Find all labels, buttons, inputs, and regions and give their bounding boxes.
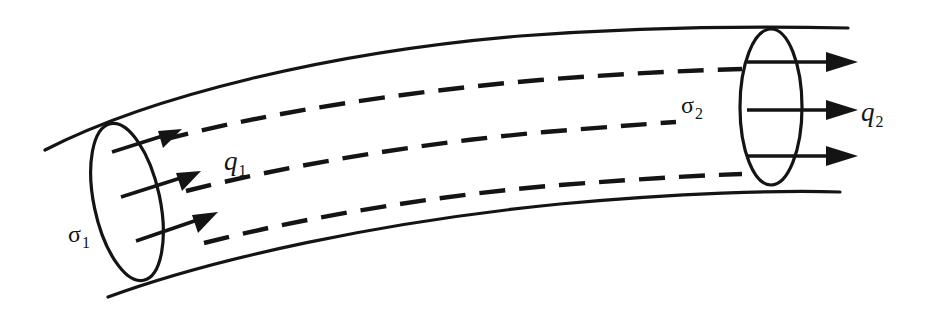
label-sigma-1-subscript: 1: [82, 234, 90, 251]
outlet-arrow-3: [747, 146, 858, 166]
outlet-flux-arrows: [747, 52, 858, 166]
label-q-1-subscript: 1: [239, 162, 247, 179]
label-q-2-subscript: 2: [876, 113, 884, 130]
label-q-1: q1: [224, 148, 246, 175]
label-sigma-2-subscript: 2: [695, 105, 703, 122]
label-sigma-1-base: σ: [68, 221, 81, 247]
outlet-arrow-1: [747, 52, 858, 72]
label-sigma-2-base: σ: [681, 92, 694, 118]
flux-tube-figure: σ1 q1 σ2 q2: [0, 0, 925, 310]
inlet-arrow-3: [136, 212, 218, 241]
outlet-cap-ellipse: [740, 29, 802, 185]
inlet-arrow-1: [112, 129, 182, 152]
label-q-2-base: q: [861, 97, 875, 127]
flow-line-bottom: [204, 174, 742, 243]
inlet-cross-section-cap: [78, 117, 176, 287]
inlet-arrow-2: [121, 171, 201, 197]
label-sigma-2: σ2: [681, 93, 702, 117]
tube-bottom-edge: [108, 191, 840, 297]
outlet-cross-section-cap: [740, 29, 802, 185]
outlet-arrow-2-head: [826, 100, 858, 120]
flux-tube-drawing: [0, 0, 925, 310]
inlet-arrow-3-head: [192, 212, 218, 233]
inlet-cap-ellipse: [78, 117, 176, 287]
outlet-arrow-3-head: [826, 146, 858, 166]
inlet-arrow-1-head: [158, 129, 182, 148]
label-sigma-1: σ1: [68, 222, 89, 246]
outlet-arrow-1-head: [826, 52, 858, 72]
label-q-1-base: q: [224, 146, 238, 176]
label-q-2: q2: [861, 99, 883, 126]
